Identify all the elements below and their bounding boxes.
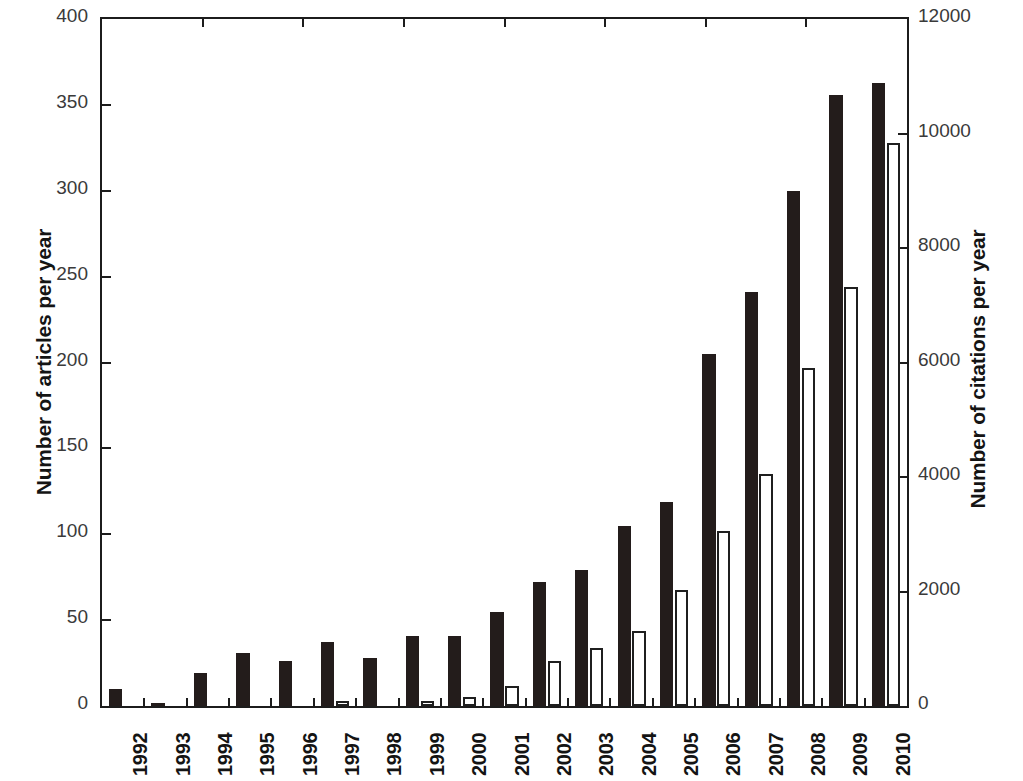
y-axis-right-tick-label: 2000 (918, 578, 960, 600)
x-axis-tick-label: 2005 (680, 733, 703, 776)
x-axis-tick-label: 1998 (383, 733, 406, 776)
y-axis-left-tick-label: 150 (30, 434, 88, 456)
x-axis-tick-label: 2007 (765, 733, 788, 776)
x-axis-tick-label: 1992 (129, 733, 152, 776)
bar-articles (660, 502, 673, 706)
x-axis-tick-label: 2010 (892, 733, 915, 776)
x-axis-tick-label: 2003 (595, 733, 618, 776)
bar-citations (717, 531, 730, 706)
y-axis-right-tick-labels: 020004000600080001000012000 (918, 0, 998, 781)
y-axis-right-tick-label: 0 (918, 692, 929, 714)
bar-citations (759, 474, 772, 706)
y-axis-left-tick-label: 0 (30, 692, 88, 714)
plot-area (100, 17, 909, 708)
bar-citations (548, 661, 561, 706)
y-axis-left-tick-label: 350 (30, 91, 88, 113)
x-axis-tick-label: 1994 (214, 733, 237, 776)
bar-articles (533, 582, 546, 706)
bar-citations (802, 368, 815, 706)
bar-articles (406, 636, 419, 706)
y-axis-left-tick-label: 100 (30, 520, 88, 542)
bar-articles (872, 83, 885, 706)
y-axis-left-tick-label: 400 (30, 5, 88, 27)
bar-articles (448, 636, 461, 706)
x-axis-tick-label: 1999 (426, 733, 449, 776)
bar-articles (745, 292, 758, 706)
bar-articles (236, 653, 249, 706)
y-axis-right-tick-label: 6000 (918, 349, 960, 371)
bar-series-group (102, 19, 907, 706)
x-axis-tick-label: 2009 (849, 733, 872, 776)
y-axis-right-tick-label: 10000 (918, 120, 971, 142)
y-axis-left-tick-labels: 050100150200250300350400 (30, 0, 88, 781)
y-axis-right-tick-label: 12000 (918, 5, 971, 27)
bar-articles (490, 612, 503, 706)
bar-articles (702, 354, 715, 706)
x-axis-tick-label: 1996 (299, 733, 322, 776)
bar-articles (363, 658, 376, 706)
bar-citations (887, 143, 900, 706)
x-axis-tick-label: 2002 (553, 733, 576, 776)
bar-articles (575, 570, 588, 706)
y-axis-left-tick-label: 300 (30, 177, 88, 199)
x-axis-tick-label: 2004 (638, 733, 661, 776)
bar-citations (590, 648, 603, 706)
bar-articles (787, 191, 800, 706)
bar-articles (194, 673, 207, 706)
x-axis-tick-label: 2001 (511, 733, 534, 776)
bar-citations (505, 686, 518, 706)
y-axis-left-tick-label: 200 (30, 349, 88, 371)
bar-citations (675, 590, 688, 706)
bar-articles (279, 661, 292, 706)
y-axis-left-tick-label: 50 (30, 606, 88, 628)
x-axis-tick-label: 1995 (256, 733, 279, 776)
y-axis-right-tick-label: 4000 (918, 463, 960, 485)
bar-articles (829, 95, 842, 706)
y-axis-left-tick-label: 250 (30, 263, 88, 285)
bar-articles (321, 642, 334, 706)
x-axis-tick-label: 1993 (172, 733, 195, 776)
y-axis-right-tick-label: 8000 (918, 234, 960, 256)
bar-citations (844, 287, 857, 706)
chart-figure: Number of articles per year Number of ci… (0, 0, 1023, 781)
x-axis-tick-labels: 1992199319941995199619971998199920002001… (100, 704, 905, 781)
bar-articles (618, 526, 631, 706)
x-axis-tick-label: 2008 (807, 733, 830, 776)
bar-citations (632, 631, 645, 706)
x-axis-tick-label: 2006 (722, 733, 745, 776)
x-axis-tick-label: 1997 (341, 733, 364, 776)
x-axis-tick-label: 2000 (468, 733, 491, 776)
